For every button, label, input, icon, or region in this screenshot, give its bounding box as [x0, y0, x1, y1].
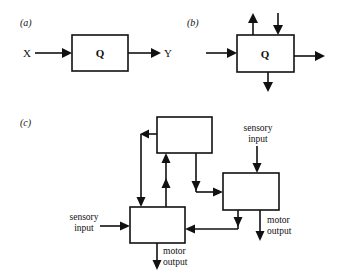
arrow-head-icon	[227, 48, 237, 58]
arrow-head-icon	[263, 82, 273, 92]
arrow-head-icon	[151, 48, 161, 58]
arrow-head-icon	[162, 153, 171, 163]
top-box	[157, 117, 212, 153]
output-y-label: Y	[164, 47, 172, 59]
panel-c-label: (c)	[20, 117, 32, 129]
panel-b: (b) Q	[187, 13, 325, 92]
arrow-head-icon	[185, 225, 195, 234]
arrow-head-icon	[120, 222, 130, 231]
q-box-a-label: Q	[96, 47, 105, 59]
left-sensory-label-1: sensory	[69, 212, 98, 222]
arrow-head-icon	[234, 217, 243, 227]
right-motor-label-1: motor	[267, 215, 291, 225]
arrow-head-icon	[162, 178, 171, 188]
arrow-head-icon	[213, 188, 223, 197]
panel-b-label: (b)	[187, 17, 199, 29]
left-sensory-label-2: input	[74, 223, 94, 233]
left-motor-label-1: motor	[163, 246, 187, 256]
right-box	[223, 173, 279, 210]
arrow-head-icon	[153, 260, 162, 270]
arrow-head-icon	[137, 197, 146, 207]
input-x-label: X	[23, 47, 31, 59]
block-diagram: (a) X Q Y (b) Q (c)	[0, 0, 345, 274]
right-sensory-label-2: input	[248, 134, 268, 144]
arrow-head-icon	[253, 163, 262, 173]
arrow-head-icon	[62, 48, 72, 58]
arrow-head-icon	[273, 25, 283, 35]
arrow-head-icon	[315, 51, 325, 61]
left-motor-label-2: output	[163, 257, 188, 267]
q-box-b-label: Q	[261, 48, 270, 60]
arrow-head-icon	[192, 181, 201, 191]
arrow-head-icon	[256, 231, 265, 241]
right-motor-label-2: output	[267, 226, 292, 236]
panel-a: (a) X Q Y	[20, 17, 172, 71]
left-box	[130, 207, 185, 243]
right-sensory-label-1: sensory	[243, 123, 272, 133]
panel-a-label: (a)	[20, 17, 32, 29]
panel-c: (c) sensory input motor output	[20, 117, 292, 270]
arrow-head-icon	[248, 13, 258, 23]
